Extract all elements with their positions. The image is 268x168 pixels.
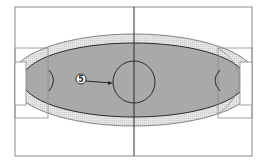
callout-label: 5 [78, 75, 84, 84]
right-inner-box [240, 62, 252, 105]
left-inner-box [15, 62, 26, 105]
technical-diagram: 5 [0, 0, 268, 168]
